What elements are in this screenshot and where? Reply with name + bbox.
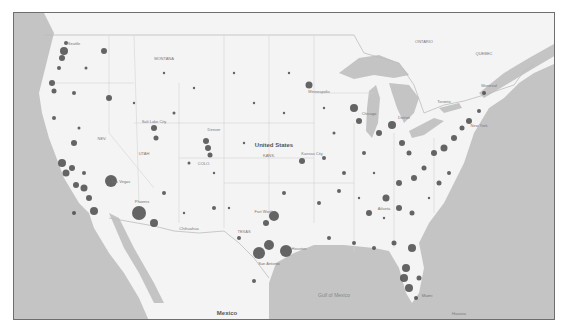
lake-superior: [339, 55, 409, 79]
label-utah: UTAH: [139, 151, 150, 156]
label-gulf-of-mexico: Gulf of Mexico: [318, 292, 350, 298]
label-kansas: KANS.: [263, 153, 275, 158]
label-kansas-city: Kansas City: [301, 151, 322, 156]
label-denver: Denver: [208, 127, 221, 132]
label-united-states: United States: [255, 142, 293, 148]
label-seattle: Seattle: [68, 41, 80, 46]
label-san-antonio: San Antonio: [258, 261, 280, 266]
label-ontario: ONTARIO: [415, 39, 433, 44]
label-new-york: New York: [471, 123, 488, 128]
lake-ontario: [439, 103, 462, 113]
label-detroit: Detroit: [398, 115, 410, 120]
label-colorado: COLO.: [198, 161, 210, 166]
label-salt-lake-city: Salt Lake City: [142, 119, 167, 124]
map-frame[interactable]: United States Mexico Gulf of Mexico ONTA…: [13, 12, 555, 320]
label-houston: Houston: [292, 246, 307, 251]
label-texas: TEXAS: [237, 229, 250, 234]
label-quebec: QUEBEC: [476, 51, 493, 56]
label-phoenix: Phoenix: [135, 199, 149, 204]
map-canvas[interactable]: [14, 13, 555, 320]
label-montreal: Montreal: [481, 83, 497, 88]
lake-erie: [409, 118, 444, 138]
pacific-ocean: [14, 13, 149, 320]
label-minneapolis: Minneapolis: [308, 89, 329, 94]
label-fort-worth: Fort Worth: [255, 209, 274, 214]
label-chicago: Chicago: [362, 111, 377, 116]
label-atlanta: Atlanta: [378, 206, 390, 211]
label-miami: Miami: [422, 293, 433, 298]
label-nevada: NEV.: [98, 136, 107, 141]
label-chihuahua: Chihuahua: [179, 226, 198, 231]
label-las-vegas: Las Vegas: [112, 179, 131, 184]
label-montana: MONTANA: [154, 56, 174, 61]
label-mexico: Mexico: [217, 310, 237, 316]
label-havana: Havana: [452, 311, 466, 316]
label-toronto: Toronto: [437, 99, 450, 104]
